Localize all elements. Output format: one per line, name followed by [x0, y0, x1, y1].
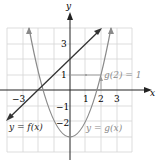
x-axis-label: x [150, 88, 155, 98]
g2-guide-dot [85, 74, 87, 76]
g-label: y = g(x) [85, 123, 123, 133]
tick-x-3: 3 [114, 94, 120, 104]
f-label: y = f(x) [8, 122, 43, 132]
g2-annotation: g(2) = 1 [104, 70, 142, 80]
tick-y-1: 1 [61, 70, 67, 80]
y-axis-label: y [65, 1, 72, 11]
tick-x-neg3: −3 [12, 94, 26, 104]
tick-x-2: 2 [98, 94, 104, 104]
tick-y-neg2: −2 [56, 118, 69, 128]
tick-y-neg1: −1 [56, 102, 69, 112]
axes [0, 16, 146, 160]
tick-y-3: 3 [61, 39, 67, 49]
y-axis-arrow-icon [67, 12, 73, 20]
tick-x-1: 1 [83, 94, 89, 104]
function-graph: x y −3 1 2 3 3 1 −1 −2 y = f(x) y = g(x)… [0, 0, 158, 164]
